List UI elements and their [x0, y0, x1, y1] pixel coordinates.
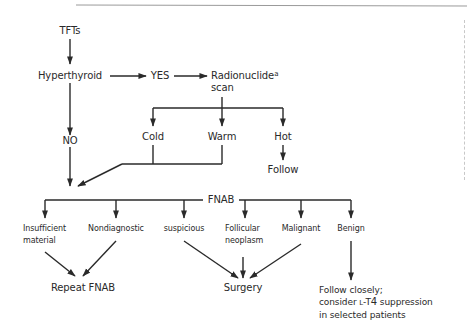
node-follicular-neoplasm: Follicularneoplasm — [225, 223, 263, 247]
t-text: -T — [363, 297, 371, 307]
node-malignant: Malignant — [282, 223, 321, 235]
node-tfts: TFTs — [60, 25, 81, 37]
node-benign: Benign — [337, 223, 364, 235]
node-cold: Cold — [142, 131, 164, 143]
node-surgery: Surgery — [224, 282, 262, 294]
node-nondiagnostic: Nondiagnostic — [88, 223, 144, 235]
node-suspicious: suspicious — [164, 223, 204, 235]
follow-closely-line1: Follow closely; — [319, 285, 383, 295]
node-hot: Hot — [274, 131, 291, 143]
node-warm: Warm — [208, 131, 237, 143]
node-follow-closely: Follow closely;consider L-T4 suppression… — [319, 284, 433, 321]
insufficient-line2: material — [23, 236, 56, 245]
insufficient-line1: Insufficient — [23, 224, 66, 233]
node-yes: YES — [151, 70, 169, 82]
follicular-line1: Follicular — [225, 224, 260, 233]
top-rule — [76, 5, 467, 6]
node-repeat-fnab: Repeat FNAB — [51, 282, 115, 294]
scan-label: scan — [211, 82, 234, 93]
node-hyperthyroid: Hyperthyroid — [38, 70, 102, 82]
consider-text: consider — [319, 297, 359, 307]
follicular-line2: neoplasm — [225, 236, 263, 245]
node-follow: Follow — [268, 164, 299, 176]
node-insufficient-material: Insufficientmaterial — [23, 223, 66, 247]
node-no: NO — [62, 135, 77, 147]
follow-closely-line3: in selected patients — [319, 310, 406, 320]
node-fnab: FNAB — [208, 194, 235, 206]
flowchart-connectors — [0, 0, 467, 330]
suppression-text: suppression — [377, 297, 433, 307]
footnote-marker: a — [274, 70, 278, 78]
node-radionuclide-scan: Radionuclideascan — [211, 70, 278, 94]
radionuclide-label: Radionuclide — [211, 70, 274, 81]
